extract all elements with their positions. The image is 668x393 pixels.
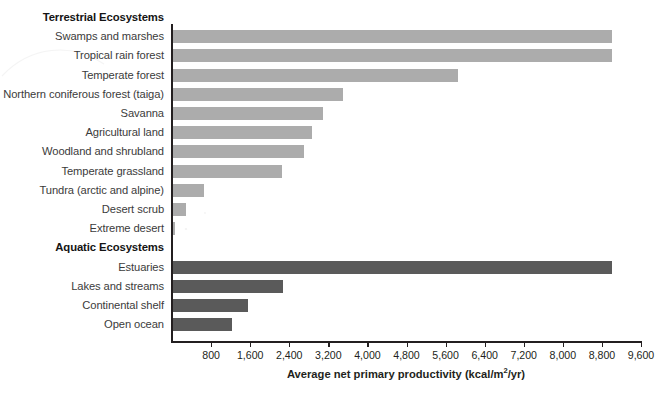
bar-temperate-forest [172,69,458,82]
x-tick [250,341,251,347]
category-label: Continental shelf [0,299,172,312]
category-label: Woodland and shrubland [0,145,172,158]
bar-row: Temperate grassland [0,162,668,181]
x-tick [641,341,642,347]
bar-rows: Terrestrial EcosystemsSwamps and marshes… [0,0,668,340]
x-tick [367,341,368,347]
bar-track [172,27,668,46]
bar-row: Northern coniferous forest (taiga) [0,85,668,104]
bar-track [172,46,668,65]
x-tick [211,341,212,347]
x-tick-label: 4,800 [393,349,420,361]
bar-track [172,8,668,27]
bar-track [172,123,668,142]
bar-lakes-and-streams [172,280,283,293]
category-label: Swamps and marshes [0,30,172,43]
bar-row: Lakes and streams [0,277,668,296]
bar-track [172,315,668,334]
bar-track [172,162,668,181]
group-label: Aquatic Ecosystems [0,241,172,254]
bar-track [172,238,668,257]
x-tick-label: 1,600 [237,349,264,361]
x-axis-title-before: Average net primary productivity (kcal/m [287,368,504,380]
bar-track [172,85,668,104]
category-label: Desert scrub [0,203,172,216]
bar-track [172,104,668,123]
bar-row: Estuaries [0,258,668,277]
bar-track [172,258,668,277]
x-tick-label: 8,800 [589,349,616,361]
x-tick [563,341,564,347]
x-tick [407,341,408,347]
x-tick [524,341,525,347]
x-tick-label: 4,000 [354,349,381,361]
bar-row: Tropical rain forest [0,46,668,65]
bar-desert-scrub [172,203,186,216]
bar-northern-coniferous-forest-taiga [172,88,343,101]
bar-track [172,66,668,85]
x-tick [328,341,329,347]
bar-tropical-rain-forest [172,49,612,62]
x-tick [446,341,447,347]
bar-track [172,181,668,200]
bar-swamps-and-marshes [172,30,612,43]
x-axis-title-after: /yr) [508,368,525,380]
group-header-aquatic-ecosystems: Aquatic Ecosystems [0,238,668,257]
bar-row: Temperate forest [0,66,668,85]
x-tick-label: 6,400 [471,349,498,361]
category-label: Estuaries [0,261,172,274]
group-label: Terrestrial Ecosystems [0,11,172,24]
bar-estuaries [172,261,612,274]
x-axis-title: Average net primary productivity (kcal/m… [171,366,641,380]
bar-row: Tundra (arctic and alpine) [0,181,668,200]
bar-track [172,277,668,296]
x-tick-label: 3,200 [315,349,342,361]
category-label: Tundra (arctic and alpine) [0,184,172,197]
bar-row: Continental shelf [0,296,668,315]
bar-row: Agricultural land [0,123,668,142]
category-label: Lakes and streams [0,280,172,293]
x-tick [602,341,603,347]
category-label: Savanna [0,107,172,120]
bar-continental-shelf [172,299,248,312]
category-label: Temperate grassland [0,165,172,178]
x-tick [485,341,486,347]
bar-temperate-grassland [172,165,282,178]
bar-savanna [172,107,323,120]
y-axis-line [171,24,173,341]
category-label: Tropical rain forest [0,49,172,62]
x-tick-label: 800 [202,349,220,361]
bar-row: Extreme desert [0,219,668,238]
bar-open-ocean [172,318,232,331]
x-tick-label: 9,600 [628,349,655,361]
x-tick-label: 5,600 [432,349,459,361]
bar-track [172,142,668,161]
x-tick-label: 2,400 [276,349,303,361]
bar-track [172,296,668,315]
bar-agricultural-land [172,126,312,139]
bar-row: Open ocean [0,315,668,334]
category-label: Extreme desert [0,222,172,235]
category-label: Temperate forest [0,69,172,82]
group-header-terrestrial-ecosystems: Terrestrial Ecosystems [0,8,668,27]
bar-row: Swamps and marshes [0,27,668,46]
bar-track [172,200,668,219]
category-label: Open ocean [0,318,172,331]
chart-container: Terrestrial EcosystemsSwamps and marshes… [0,0,668,393]
category-label: Agricultural land [0,126,172,139]
bar-woodland-and-shrubland [172,145,304,158]
x-tick-label: 8,000 [550,349,577,361]
x-tick [289,341,290,347]
bar-track [172,219,668,238]
bar-tundra-arctic-and-alpine [172,184,204,197]
bar-row: Woodland and shrubland [0,142,668,161]
category-label: Northern coniferous forest (taiga) [0,88,172,101]
x-tick-label: 7,200 [510,349,537,361]
bar-row: Desert scrub [0,200,668,219]
bar-row: Savanna [0,104,668,123]
